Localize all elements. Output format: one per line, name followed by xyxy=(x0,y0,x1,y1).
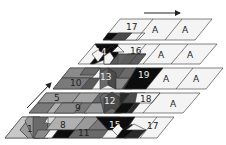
cell-label: 5 xyxy=(54,93,60,103)
cell-label: 8 xyxy=(60,120,66,130)
cell-label: A xyxy=(170,99,177,109)
cell-label: 1 xyxy=(27,124,33,134)
cell-label: A xyxy=(158,50,165,60)
cell-label: 14 xyxy=(95,47,107,57)
cell-label: A xyxy=(152,25,159,35)
cell-label: 10 xyxy=(70,78,82,88)
cell-label: 11 xyxy=(78,128,89,138)
layer-stack-diagram: 1 8 11 15 17 5 9 12 18 A xyxy=(0,0,226,145)
cell-label: 13 xyxy=(100,72,111,82)
cell-label: 19 xyxy=(138,70,150,80)
cell-label: A xyxy=(163,74,170,84)
cell-label: A xyxy=(182,25,189,35)
cell-label: 18 xyxy=(140,94,152,104)
cell-label: A xyxy=(187,50,194,60)
cell-label: 12 xyxy=(104,96,115,106)
cell-label: 17 xyxy=(126,22,137,32)
cell-label: A xyxy=(193,74,200,84)
cell-label: 15 xyxy=(109,120,120,130)
cell-label: 9 xyxy=(75,103,81,113)
